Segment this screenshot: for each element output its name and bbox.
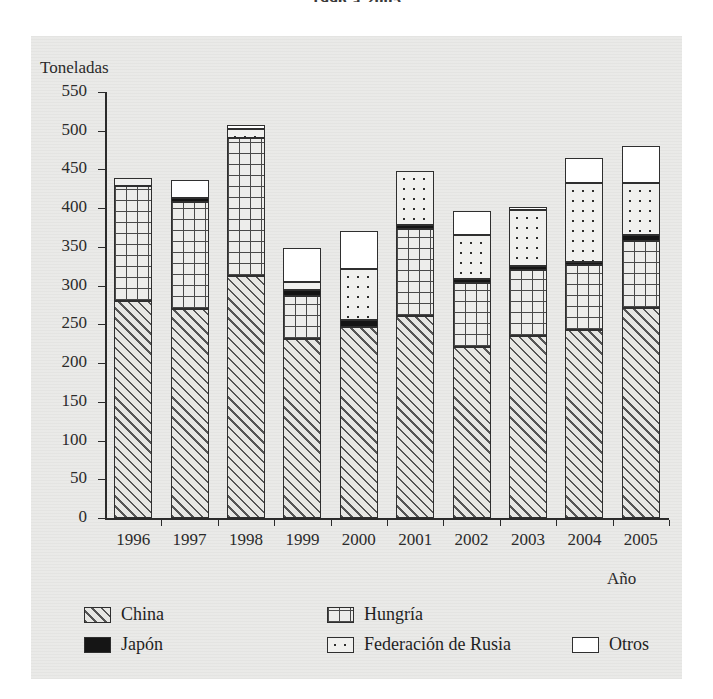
bar-2005 [622,92,660,518]
y-tick-mark [98,247,105,248]
legend-item-china[interactable]: China [84,604,164,625]
x-tick-label: 2002 [442,530,502,550]
segment-hungria [396,229,434,316]
y-tick-label: 150 [45,391,87,411]
x-tick-mark [161,520,162,526]
segment-federacion-de-rusia [509,210,547,267]
segment-hungria [453,283,491,347]
y-tick-mark [98,92,105,93]
bar-1998 [227,92,265,518]
segment-china [114,301,152,518]
x-tick-mark [500,520,501,526]
segment-otros [453,211,491,235]
y-tick-label: 250 [45,313,87,333]
legend-label: Hungría [364,604,423,625]
segment-hungria [283,296,321,339]
segment-hungria [171,202,209,309]
segment-federacion-de-rusia [283,282,321,291]
bar-1997 [171,92,209,518]
y-tick-mark [98,402,105,403]
y-tick-label: 0 [45,507,87,527]
y-axis-unit-label: Toneladas [40,58,109,78]
y-tick-label: 200 [45,352,87,372]
legend-label: Federación de Rusia [364,634,511,655]
segment-china [283,339,321,518]
segment-otros [340,231,378,269]
segment-otros [622,146,660,183]
y-tick-label: 400 [45,197,87,217]
white-swatch-icon [572,637,599,653]
x-tick-label: 2003 [498,530,558,550]
x-tick-mark [387,520,388,526]
y-tick-label: 450 [45,158,87,178]
y-tick-label: 100 [45,430,87,450]
x-tick-label: 2005 [611,530,671,550]
y-tick-mark [98,131,105,132]
segment-china [396,316,434,518]
segment-otros [283,248,321,281]
segment-japon [453,279,491,283]
segment-federacion-de-rusia [227,129,265,138]
segment-japon [396,225,434,229]
segment-china [509,336,547,518]
diagonal-hatch-swatch-icon [84,607,111,623]
x-axis-unit-label: Año [607,569,636,589]
bar-2000 [340,92,378,518]
segment-federacion-de-rusia [622,183,660,235]
segment-japon [622,235,660,241]
segment-federacion-de-rusia [453,235,491,279]
y-tick-label: 300 [45,275,87,295]
segment-hungria [509,270,547,336]
y-tick-mark [98,363,105,364]
segment-japon [283,290,321,296]
bar-2003 [509,92,547,518]
y-tick-label: 550 [45,81,87,101]
y-tick-mark [98,169,105,170]
legend-item-federación-de-rusia[interactable]: Federación de Rusia [327,634,511,655]
x-tick-label: 1997 [160,530,220,550]
y-tick-label: 50 [45,468,87,488]
dotted-swatch-icon [327,637,354,653]
bar-2001 [396,92,434,518]
segment-federacion-de-rusia [565,183,603,262]
segment-otros [227,125,265,130]
bar-1999 [283,92,321,518]
x-tick-label: 2000 [329,530,389,550]
x-tick-label: 1999 [272,530,332,550]
legend-label: China [121,604,164,625]
plot-area: Toneladas Año 05010015020025030035040045… [31,36,682,679]
segment-federacion-de-rusia [114,178,152,187]
chart-legend: ChinaJapónHungríaFederación de RusiaOtro… [84,604,664,664]
y-tick-mark [98,518,105,519]
chart-title: 1996 a 2005 [0,0,713,2]
x-tick-mark [556,520,557,526]
legend-label: Otros [609,634,649,655]
figure-panel: Toneladas Año 05010015020025030035040045… [31,36,682,679]
legend-label: Japón [121,634,163,655]
y-tick-mark [98,286,105,287]
y-tick-mark [98,324,105,325]
x-tick-mark [669,520,670,526]
x-tick-mark [443,520,444,526]
x-tick-label: 1998 [216,530,276,550]
segment-china [171,309,209,518]
segment-japon [340,320,378,327]
bar-2002 [453,92,491,518]
segment-japon [565,262,603,265]
legend-item-japón[interactable]: Japón [84,634,163,655]
x-tick-mark [613,520,614,526]
legend-item-otros[interactable]: Otros [572,634,649,655]
x-tick-mark [274,520,275,526]
legend-item-hungría[interactable]: Hungría [327,604,423,625]
segment-china [227,276,265,518]
y-tick-mark [98,479,105,480]
y-tick-mark [98,441,105,442]
segment-hungria [227,138,265,277]
segment-federacion-de-rusia [340,269,378,320]
segment-japon [171,198,209,202]
segment-china [622,308,660,518]
x-tick-label: 2001 [385,530,445,550]
segment-otros [171,180,209,199]
x-tick-mark [331,520,332,526]
segment-hungria [565,265,603,330]
